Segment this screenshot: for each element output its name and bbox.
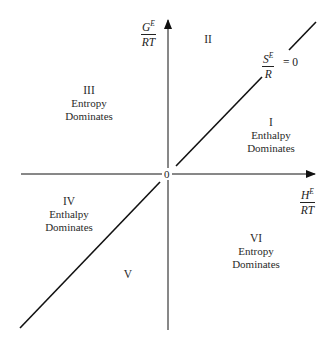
x-axis-label-denominator: RT [301, 203, 314, 216]
region-I-label: I Enthalpy Dominates [236, 116, 306, 155]
region-V-label: V [113, 268, 143, 281]
y-axis-label: GE RT [141, 18, 156, 48]
diagonal-line-upper [289, 22, 316, 50]
region-line2: Dominates [34, 221, 104, 234]
region-line1: Enthalpy [236, 129, 306, 142]
region-line1: Entropy [221, 245, 291, 258]
y-axis-label-denominator: RT [142, 35, 155, 48]
y-axis-label-numerator: GE [141, 18, 156, 35]
diagonal-label: SE R [262, 50, 274, 80]
diagonal-label-numerator: SE [262, 50, 274, 67]
x-axis-label-numerator: HE [300, 186, 315, 203]
diagonal-label-equals: = 0 [283, 56, 298, 68]
region-numeral: V [113, 268, 143, 281]
region-IV-label: IV Enthalpy Dominates [34, 195, 104, 234]
region-line2: Dominates [54, 110, 124, 123]
region-VI-label: VI Entropy Dominates [221, 232, 291, 271]
region-III-label: III Entropy Dominates [54, 84, 124, 123]
diagonal-label-denominator: R [265, 67, 272, 80]
region-numeral: III [54, 84, 124, 97]
region-line1: Enthalpy [34, 208, 104, 221]
region-numeral: II [193, 33, 223, 46]
region-line2: Dominates [236, 142, 306, 155]
region-line2: Dominates [221, 258, 291, 271]
region-numeral: VI [221, 232, 291, 245]
region-numeral: I [236, 116, 306, 129]
region-II-label: II [193, 33, 223, 46]
x-axis-label: HE RT [300, 186, 315, 216]
region-numeral: IV [34, 195, 104, 208]
region-line1: Entropy [54, 97, 124, 110]
origin-label: 0 [162, 168, 172, 180]
